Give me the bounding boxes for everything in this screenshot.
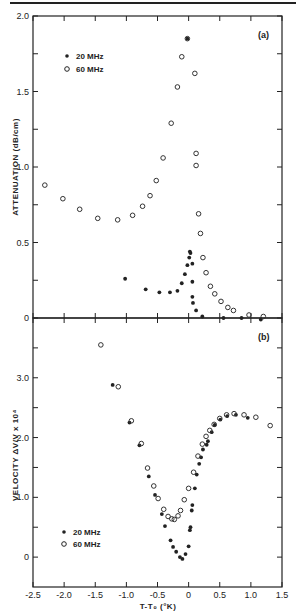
data-point-20mhz xyxy=(205,443,209,447)
y-tick-label: 2.0 xyxy=(16,11,29,21)
x-tick-label: -1.5 xyxy=(87,590,103,600)
data-point-20mhz xyxy=(194,309,198,313)
data-point-60mhz xyxy=(116,384,121,389)
data-point-20mhz xyxy=(171,545,175,549)
y-tick-label: 0 xyxy=(24,313,29,323)
data-point-20mhz xyxy=(190,509,194,513)
data-point-60mhz xyxy=(169,121,174,126)
axis-ticks xyxy=(33,16,282,587)
data-point-20mhz xyxy=(157,290,161,294)
legend-open-marker xyxy=(62,542,67,547)
data-point-20mhz xyxy=(147,475,151,479)
data-point-20mhz xyxy=(169,538,173,542)
data-point-60mhz xyxy=(151,484,156,489)
data-point-60mhz xyxy=(242,413,247,418)
data-point-20mhz xyxy=(201,448,205,452)
data-point-20mhz xyxy=(184,552,188,556)
data-point-60mhz xyxy=(156,496,161,501)
data-point-60mhz xyxy=(200,442,205,447)
data-point-60mhz xyxy=(161,156,166,161)
data-point-60mhz xyxy=(186,486,191,491)
data-point-20mhz xyxy=(185,263,189,267)
data-point-20mhz xyxy=(222,316,226,320)
data-point-60mhz xyxy=(115,218,120,223)
panel-a-ylabel: ATTENUATION (dB/cm) xyxy=(11,118,20,216)
data-point-60mhz xyxy=(254,415,259,420)
data-point-20mhz xyxy=(180,281,184,285)
data-point-20mhz xyxy=(163,524,167,528)
legend-a: 20 MHz 60 MHz xyxy=(65,52,104,74)
data-point-60mhz xyxy=(178,508,183,513)
data-point-60mhz xyxy=(191,470,196,475)
data-point-60mhz xyxy=(43,183,48,188)
data-point-60mhz xyxy=(231,308,236,313)
data-point-60mhz xyxy=(196,454,201,459)
panel-b-points xyxy=(99,343,273,561)
data-point-60mhz xyxy=(194,151,199,156)
panel-a-label: (a) xyxy=(258,30,269,40)
x-tick-label: 1.5 xyxy=(276,590,289,600)
data-point-60mhz xyxy=(201,255,206,260)
x-tick-label: -2.5 xyxy=(25,590,41,600)
data-point-20mhz xyxy=(191,301,195,305)
data-point-60mhz xyxy=(130,213,135,218)
x-tick-label: 0 xyxy=(186,590,191,600)
data-point-60mhz xyxy=(182,497,187,502)
data-point-60mhz xyxy=(154,178,159,183)
data-point-60mhz xyxy=(95,216,100,221)
data-point-20mhz xyxy=(197,462,201,466)
legend-filled-marker xyxy=(65,54,69,58)
data-point-60mhz xyxy=(175,85,180,90)
data-point-60mhz xyxy=(61,196,66,201)
panel-a-frame xyxy=(33,16,282,318)
x-tick-label: 0.5 xyxy=(213,590,226,600)
axis-tick-labels: 00.51.01.52.001.02.03.0-2.5-2.0-1.5-1.0-… xyxy=(16,11,288,600)
data-point-20mhz xyxy=(123,277,127,281)
x-tick-label: 1.0 xyxy=(245,590,258,600)
x-tick-label: -2.0 xyxy=(56,590,72,600)
data-point-20mhz xyxy=(187,256,191,260)
y-tick-label: 0 xyxy=(24,552,29,562)
data-point-60mhz xyxy=(140,204,145,209)
x-tick-label: -0.5 xyxy=(150,590,166,600)
data-point-60mhz xyxy=(204,434,209,439)
x-axis-title: T-T₀ (°K) xyxy=(140,602,177,611)
data-point-20mhz xyxy=(187,544,191,548)
data-point-20mhz xyxy=(189,525,193,529)
data-point-20mhz xyxy=(183,272,187,276)
data-point-20mhz xyxy=(168,290,172,294)
y-tick-label: 1.5 xyxy=(16,87,29,97)
data-point-20mhz xyxy=(176,289,180,293)
panel-b-frame xyxy=(33,318,282,587)
data-point-60mhz xyxy=(194,163,199,168)
data-point-20mhz xyxy=(190,262,194,266)
data-point-60mhz xyxy=(99,343,104,348)
data-point-60mhz xyxy=(268,423,273,428)
data-point-60mhz xyxy=(198,231,203,236)
data-point-20mhz xyxy=(181,557,185,561)
data-point-20mhz xyxy=(160,512,164,516)
data-point-60mhz xyxy=(179,54,184,59)
data-point-60mhz xyxy=(219,299,224,304)
legend-60mhz-label: 60 MHz xyxy=(76,65,104,74)
data-point-20mhz xyxy=(200,315,204,319)
panel-b-ylabel: VELOCITY ΔV/V x 10⁴ xyxy=(11,409,20,501)
legend-20mhz-label: 20 MHz xyxy=(76,52,104,61)
data-point-60mhz xyxy=(145,466,150,471)
data-point-60mhz xyxy=(176,514,181,519)
panel-b-label: (b) xyxy=(258,332,270,342)
data-point-20mhz xyxy=(246,416,250,420)
data-point-20mhz xyxy=(206,439,210,443)
figure: 00.51.01.52.001.02.03.0-2.5-2.0-1.5-1.0-… xyxy=(0,0,296,615)
data-point-60mhz xyxy=(212,292,217,297)
data-point-20mhz xyxy=(193,486,197,490)
data-point-20mhz xyxy=(190,295,194,299)
x-tick-label: -1.0 xyxy=(119,590,135,600)
legend-20mhz-label: 20 MHz xyxy=(73,528,101,537)
data-point-60mhz xyxy=(226,305,231,310)
legend-open-marker xyxy=(65,67,70,72)
data-point-20mhz xyxy=(153,493,157,497)
y-tick-label: 3.0 xyxy=(16,373,29,383)
data-point-60mhz xyxy=(204,270,209,275)
data-point-20mhz xyxy=(144,287,148,291)
